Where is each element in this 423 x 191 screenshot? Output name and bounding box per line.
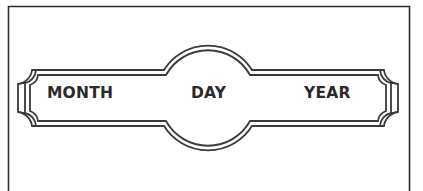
year-label: YEAR <box>304 86 351 102</box>
date-card: MONTH DAY YEAR <box>0 0 423 191</box>
day-label: DAY <box>191 86 226 102</box>
month-label: MONTH <box>47 86 113 102</box>
